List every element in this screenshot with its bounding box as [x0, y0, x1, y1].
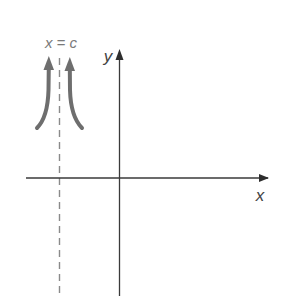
asymptote-diagram: x = c y x: [0, 0, 293, 306]
right-branch-arrow: [70, 67, 82, 128]
y-axis-arrowhead-icon: [116, 49, 124, 60]
left-branch-arrow: [37, 66, 49, 128]
asymptote-label: x = c: [44, 34, 78, 51]
left-branch-arrowhead-icon: [44, 56, 55, 70]
x-axis-label: x: [255, 186, 265, 205]
right-branch-arrowhead-icon: [65, 57, 76, 71]
y-axis-label: y: [103, 47, 114, 66]
